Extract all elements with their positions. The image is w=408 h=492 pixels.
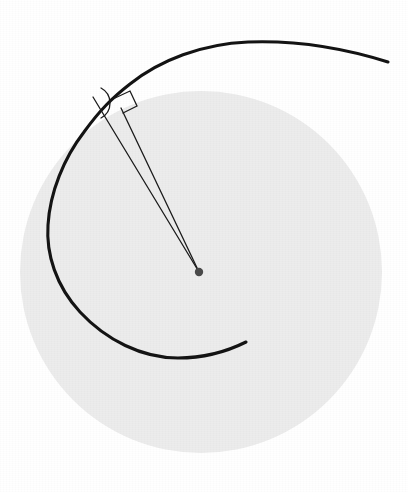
- spiral-geometry-figure: Archimedean spiral inscribed over a shad…: [0, 0, 408, 492]
- diagram-root: Archimedean spiral inscribed over a shad…: [0, 0, 408, 492]
- spiral-center-point: [195, 268, 203, 276]
